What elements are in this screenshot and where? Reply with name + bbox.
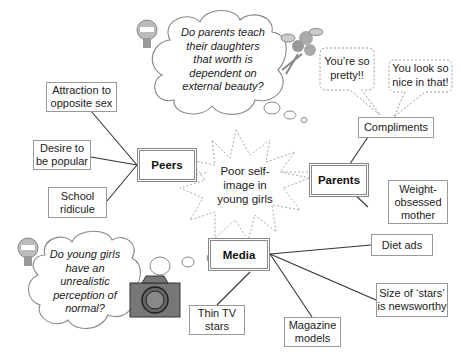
text-line: Desire to <box>40 142 84 155</box>
parents-item-mother: Weight- obsessed mother <box>388 180 448 224</box>
media-item-thin-tv: Thin TV stars <box>189 305 245 335</box>
text-line: Do parents teach <box>168 26 278 40</box>
text-line: young girls <box>210 192 280 206</box>
text-line: be popular <box>36 155 88 168</box>
hub-media: Media <box>208 238 270 271</box>
text-line: obsessed <box>394 196 441 209</box>
flower-bouquet-icon <box>281 29 323 75</box>
text-line: perception of <box>40 289 130 303</box>
text-line: stars <box>205 320 229 333</box>
text-line: You’re so <box>320 55 374 69</box>
thought-media-question: Do young girls have an unrealistic perce… <box>40 248 130 316</box>
parents-item-compliments: Compliments <box>358 117 434 138</box>
text-line: Thin TV <box>198 307 236 320</box>
text-line: external beauty? <box>168 80 278 94</box>
text-line: Size of ‘stars’ <box>379 287 444 300</box>
text-line: their daughters <box>168 40 278 54</box>
media-item-diet-ads: Diet ads <box>371 234 433 256</box>
text-line: Attraction to <box>52 84 111 97</box>
text-line: Magazine <box>289 319 337 332</box>
text-line: mother <box>401 209 435 222</box>
text-line: Do young girls <box>40 248 130 262</box>
text-line: opposite sex <box>51 97 113 110</box>
text-line: normal? <box>40 302 130 316</box>
speech-text-1: You’re so pretty!! <box>320 55 374 82</box>
text-line: nice in that! <box>389 76 452 90</box>
lightbulb-icon <box>137 20 157 48</box>
text-line: ridicule <box>60 203 95 216</box>
hub-label: Parents <box>318 174 360 186</box>
text-line: unrealistic <box>40 275 130 289</box>
text-line: image in <box>210 178 280 192</box>
hub-parents: Parents <box>309 163 369 197</box>
text-line: Weight- <box>399 183 437 196</box>
media-item-stars-size: Size of ‘stars’ is newsworthy <box>376 283 448 317</box>
central-issue: Poor self- image in young girls <box>210 164 280 206</box>
peers-item-ridicule: School ridicule <box>48 187 107 218</box>
text-line: Poor self- <box>210 164 280 178</box>
peers-item-popular: Desire to be popular <box>33 140 91 170</box>
hub-label: Peers <box>151 159 182 171</box>
text-line: Compliments <box>364 121 428 134</box>
text-line: dependent on <box>168 67 278 81</box>
text-line: models <box>295 332 330 345</box>
text-line: have an <box>40 262 130 276</box>
text-line: pretty!! <box>320 69 374 83</box>
media-item-magazine: Magazine models <box>284 317 341 347</box>
text-line: Diet ads <box>382 239 422 252</box>
text-line: School <box>61 190 95 203</box>
text-line: is newsworthy <box>377 300 446 313</box>
speech-text-2: You look so nice in that! <box>389 62 452 89</box>
thought-parents-question: Do parents teach their daughters that wo… <box>168 26 278 94</box>
hub-label: Media <box>223 249 256 261</box>
peers-item-attraction: Attraction to opposite sex <box>46 82 117 112</box>
hub-peers: Peers <box>137 148 197 182</box>
text-line: You look so <box>389 62 452 76</box>
text-line: that worth is <box>168 53 278 67</box>
